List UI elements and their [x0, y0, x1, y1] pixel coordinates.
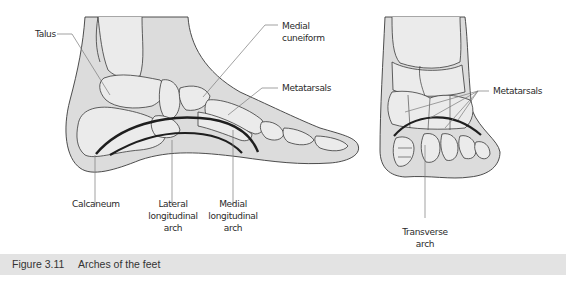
label-talus: Talus [35, 28, 56, 40]
label-calcaneum: Calcaneum [72, 198, 120, 210]
label-medial-longitudinal-arch: Medial longitudinal arch [207, 198, 259, 234]
label-transverse-arch: Transverse arch [400, 226, 450, 250]
label-medial-cuneiform: Medial cuneiform [282, 20, 325, 44]
figure-caption: Arches of the feet [78, 258, 160, 270]
front-foot [380, 17, 500, 178]
label-lateral-longitudinal-arch: Lateral longitudinal arch [148, 198, 198, 234]
label-metatarsals-side: Metatarsals [282, 82, 331, 94]
figure-number: Figure 3.11 [12, 258, 64, 270]
label-metatarsals-front: Metatarsals [493, 85, 542, 97]
figure: Talus Medial cuneiform Metatarsals Calca… [0, 0, 575, 283]
